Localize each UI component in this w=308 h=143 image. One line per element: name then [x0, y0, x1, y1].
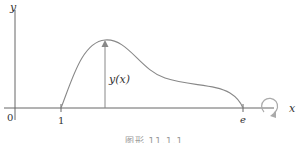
- curve-y-of-x: [61, 40, 243, 108]
- figure-canvas: y x 0 1 e y(x): [0, 0, 308, 143]
- y-axis-label: y: [9, 1, 17, 14]
- figure-caption: 图形 11.1.1: [0, 134, 308, 143]
- height-arrow-head: [102, 40, 109, 47]
- tick-label-e: e: [240, 114, 246, 125]
- tick-label-1: 1: [58, 115, 64, 126]
- origin-label: 0: [7, 112, 13, 123]
- x-axis-label: x: [289, 102, 296, 115]
- curve-label: y(x): [108, 73, 130, 86]
